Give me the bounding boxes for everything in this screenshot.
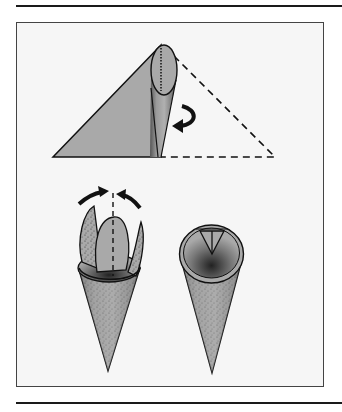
step-roll-triangle bbox=[53, 45, 275, 157]
step-fold-points bbox=[78, 186, 143, 371]
left-cone-point-right bbox=[128, 222, 143, 276]
left-cone-centre-flap bbox=[96, 217, 129, 272]
folding-illustration bbox=[0, 0, 342, 412]
rolled-cone-mouth bbox=[151, 45, 177, 95]
step-finished-cone bbox=[180, 225, 244, 373]
triangle-dashed-outline bbox=[161, 56, 275, 157]
triangle-shaded-half bbox=[53, 45, 161, 157]
fold-arrow-left-icon bbox=[79, 192, 102, 204]
